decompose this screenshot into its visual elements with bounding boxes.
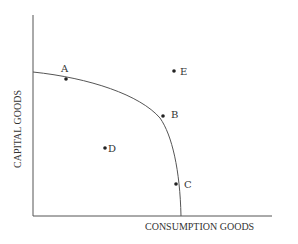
x-axis-label: CONSUMPTION GOODS <box>145 221 254 232</box>
point-c <box>174 182 178 186</box>
label-c: C <box>184 179 192 190</box>
point-a <box>64 77 68 81</box>
label-a: A <box>60 63 69 74</box>
y-axis-label: CAPITAL GOODS <box>12 90 23 168</box>
point-d <box>103 146 107 150</box>
label-b: B <box>171 109 178 120</box>
ppf-curve <box>33 72 181 216</box>
ppf-chart: A B C D E CONSUMPTION GOODS CAPITAL GOOD… <box>0 0 298 244</box>
label-d: D <box>108 143 116 154</box>
point-b <box>161 114 165 118</box>
label-e: E <box>180 66 187 77</box>
point-e <box>172 69 176 73</box>
